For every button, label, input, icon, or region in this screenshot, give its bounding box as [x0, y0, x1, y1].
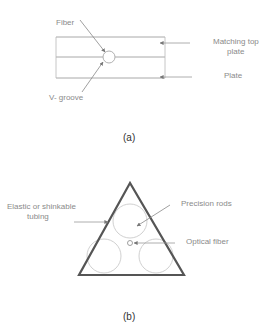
optical-fiber-label: Optical fiber: [186, 237, 229, 246]
precision-rod-bottom-left: [87, 239, 121, 273]
plate-label: Plate: [224, 71, 243, 80]
precision-rod-bottom-right: [139, 239, 173, 273]
precision-rods-label: Precision rods: [181, 199, 232, 208]
figure-a-caption: (a): [123, 132, 135, 143]
figure-b-caption: (b): [123, 311, 135, 322]
tubing-label-line1: Elastic or shinkable: [7, 202, 76, 211]
fiber-arrow: [80, 20, 105, 52]
figure-canvas: Fiber V- groove Matching top plate Plate…: [0, 0, 278, 329]
figure-a: Fiber V- groove Matching top plate Plate…: [49, 18, 259, 143]
precision-rod-top: [113, 204, 147, 238]
v-groove-arrow: [82, 62, 103, 92]
elastic-tubing-triangle: [79, 183, 184, 275]
v-groove-label: V- groove: [49, 93, 84, 102]
fiber-label: Fiber: [56, 18, 75, 27]
matching-top-plate-label-line2: plate: [227, 47, 245, 56]
tubing-label-line2: tubing: [27, 212, 49, 221]
figure-b: Elastic or shinkable tubing Precision ro…: [7, 183, 232, 322]
fiber-circle: [103, 51, 115, 63]
matching-top-plate-label-line1: Matching top: [213, 37, 259, 46]
optical-fiber-circle: [128, 241, 133, 246]
